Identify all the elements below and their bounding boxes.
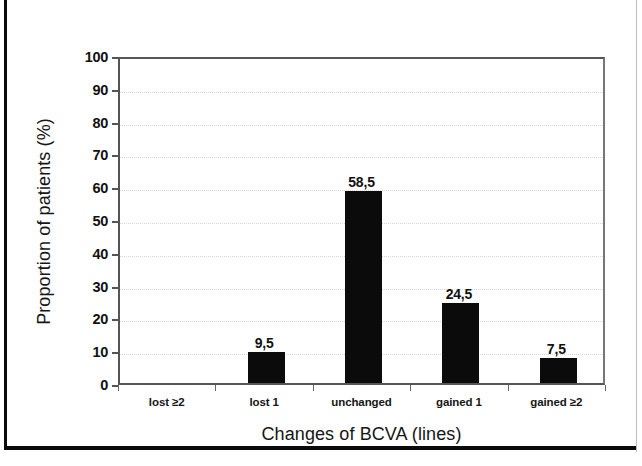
y-axis-title: Proportion of patients (%) (34, 72, 55, 372)
x-axis-tick-mark (215, 385, 216, 391)
gridline (120, 125, 603, 126)
y-axis-tick-label: 10 (74, 345, 108, 360)
x-axis-tick-mark (313, 385, 314, 391)
x-axis-tick-label: gained ≥2 (501, 396, 611, 408)
y-axis-tick-label: 90 (74, 83, 108, 98)
x-axis-tick-mark (508, 385, 509, 391)
y-axis-tick-label: 50 (74, 214, 108, 229)
y-axis-tick-label: 70 (74, 148, 108, 163)
gridline (120, 92, 603, 93)
y-axis-tick-label: 20 (74, 312, 108, 327)
x-axis-tick-mark (410, 385, 411, 391)
bar-value-label: 9,5 (234, 335, 294, 351)
x-axis-tick-label: lost ≥2 (112, 396, 222, 408)
y-axis-tick-label: 40 (74, 247, 108, 262)
y-axis-tick-label: 0 (74, 378, 108, 393)
bar-value-label: 24,5 (429, 286, 489, 302)
bar (442, 303, 479, 383)
x-axis-title: Changes of BCVA (lines) (118, 424, 605, 445)
bar (345, 191, 382, 383)
bar-chart: 0102030405060708090100 9,558,524,57,5 lo… (0, 0, 642, 466)
x-axis-tick-mark (118, 385, 119, 391)
bar (248, 352, 285, 383)
bar (540, 358, 577, 383)
bar-value-label: 58,5 (332, 174, 392, 190)
y-axis-tick-label: 30 (74, 280, 108, 295)
figure-page: 0102030405060708090100 9,558,524,57,5 lo… (0, 0, 642, 466)
x-axis-tick-label: unchanged (307, 396, 417, 408)
x-axis-tick-label: lost 1 (209, 396, 319, 408)
gridline (120, 157, 603, 158)
y-axis-tick-label: 100 (74, 50, 108, 65)
x-axis-tick-mark (605, 385, 606, 391)
y-axis-tick-label: 60 (74, 181, 108, 196)
bar-value-label: 7,5 (526, 341, 586, 357)
y-axis-tick-label: 80 (74, 116, 108, 131)
plot-area (118, 57, 605, 385)
x-axis-tick-label: gained 1 (404, 396, 514, 408)
